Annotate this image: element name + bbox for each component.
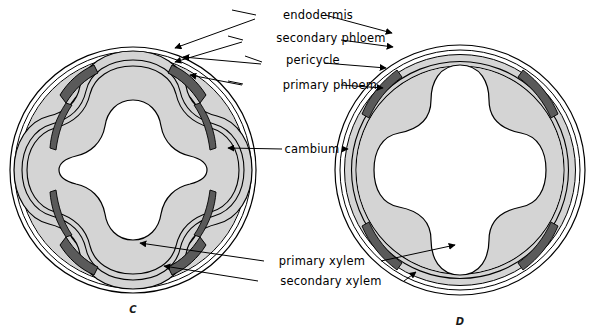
label-secondary-phloem: secondary phloem [276,31,386,45]
label-secondary-xylem: secondary xylem [280,274,381,288]
label-pericycle: pericycle [286,53,340,67]
label-endodermis: endodermis [283,8,353,22]
leader-endodermis-left [175,19,255,48]
panel-letter-d: D [456,316,464,327]
panel-letter-c: C [129,304,137,315]
leader-secondary-phloem-tick [228,36,243,40]
diagram-canvas: C D [0,0,599,334]
leader-pericycle-tick [245,56,262,62]
label-primary-xylem: primary xylem [279,254,365,268]
label-primary-phloem: primary phloem [283,78,378,92]
leader-endodermis-tick [232,10,256,15]
label-cambium: cambium [285,142,340,156]
figure-root-secondary-growth: C D [0,0,599,334]
